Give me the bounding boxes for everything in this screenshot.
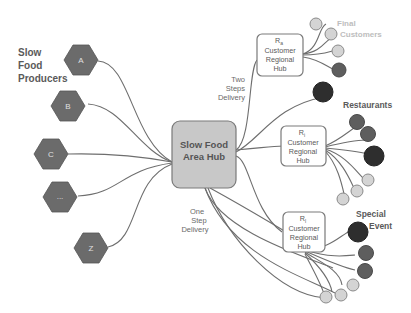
producers-label-line3: Producers bbox=[18, 73, 68, 84]
final-customer-node[interactable] bbox=[320, 291, 332, 303]
final-customers-label-line1: Final bbox=[337, 19, 356, 28]
regional-hub-line1: Customer bbox=[287, 138, 319, 147]
one-step-label-line2: Step bbox=[191, 216, 206, 225]
producer-node-z[interactable]: Z bbox=[74, 233, 108, 263]
producer-label: B bbox=[65, 102, 70, 111]
final-customer-node[interactable] bbox=[310, 18, 322, 30]
producers-label-line2: Food bbox=[18, 60, 42, 71]
producer-node-b[interactable]: B bbox=[51, 91, 85, 121]
producer-label: A bbox=[78, 56, 84, 65]
producer-label: ... bbox=[57, 192, 64, 201]
distribution-network-diagram: Slow Food Producers A B C ... Z Slow Foo… bbox=[0, 0, 411, 313]
final-customers-label-line2: Customers bbox=[340, 30, 382, 39]
final-customer-node[interactable] bbox=[337, 193, 349, 205]
special-event-node[interactable] bbox=[313, 82, 333, 102]
area-hub-node[interactable]: Slow Food Area Hub bbox=[172, 121, 236, 188]
final-customer-node[interactable] bbox=[362, 174, 374, 186]
regional-hub-rl[interactable]: Rl Customer Regional Hub bbox=[283, 212, 325, 252]
two-steps-label-line2: Steps bbox=[226, 84, 245, 93]
final-customer-node[interactable] bbox=[335, 289, 347, 301]
regional-hub-line2: Regional bbox=[266, 55, 295, 64]
restaurant-node[interactable] bbox=[359, 246, 374, 261]
special-event-node[interactable] bbox=[364, 146, 384, 166]
regional-hub-ra[interactable]: Ra Customer Regional Hub bbox=[257, 34, 303, 76]
final-customer-node[interactable] bbox=[351, 185, 363, 197]
regional-hub-line3: Hub bbox=[297, 242, 310, 251]
final-customer-node[interactable] bbox=[325, 28, 337, 40]
final-customer-node[interactable] bbox=[347, 279, 359, 291]
two-steps-label-line3: Delivery bbox=[218, 93, 245, 102]
one-step-label-line3: Delivery bbox=[181, 225, 208, 234]
restaurant-node[interactable] bbox=[332, 63, 346, 77]
restaurants-label: Restaurants bbox=[343, 100, 392, 110]
special-event-label-line2: Event bbox=[369, 221, 392, 231]
restaurant-node[interactable] bbox=[350, 115, 365, 130]
producer-node-c[interactable]: C bbox=[34, 139, 68, 169]
regional-hub-ri[interactable]: Ri Customer Regional Hub bbox=[281, 126, 326, 166]
producer-label: C bbox=[48, 150, 54, 159]
producer-label: Z bbox=[89, 244, 94, 253]
producers-label-line1: Slow bbox=[18, 47, 42, 58]
regional-hub-line3: Hub bbox=[273, 64, 286, 73]
final-customer-node[interactable] bbox=[332, 45, 344, 57]
producer-node-ellipsis[interactable]: ... bbox=[43, 182, 77, 212]
area-hub-label-line1: Slow Food bbox=[180, 139, 228, 150]
regional-hub-line2: Regional bbox=[289, 147, 318, 156]
regional-hub-line1: Customer bbox=[264, 46, 296, 55]
area-hub-label-line2: Area Hub bbox=[183, 151, 225, 162]
two-steps-label-line1: Two bbox=[231, 75, 245, 84]
special-event-label-line1: Special bbox=[356, 209, 386, 219]
regional-hub-line1: Customer bbox=[288, 224, 320, 233]
regional-hub-line3: Hub bbox=[296, 156, 309, 165]
regional-hub-line2: Regional bbox=[290, 233, 319, 242]
special-event-node[interactable] bbox=[348, 222, 368, 242]
one-step-label-line1: One bbox=[190, 207, 204, 216]
restaurant-node[interactable] bbox=[358, 264, 373, 279]
restaurant-node[interactable] bbox=[361, 127, 376, 142]
producer-node-a[interactable]: A bbox=[64, 45, 98, 75]
producer-edges bbox=[68, 61, 172, 247]
